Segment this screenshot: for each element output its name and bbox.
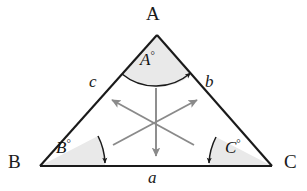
side-label-a: a — [148, 169, 157, 186]
side-label-b: b — [205, 73, 214, 90]
vertex-label-c: C — [284, 152, 297, 171]
vertex-label-a: A — [146, 4, 160, 23]
angle-label-c: C° — [225, 138, 241, 156]
angle-arcs — [98, 73, 216, 163]
triangle-diagram-canvas — [0, 0, 307, 191]
angle-label-b-letter: B — [56, 138, 66, 157]
angle-label-a: A° — [140, 50, 155, 68]
angle-label-b: B° — [56, 138, 71, 156]
degree-symbol-a: ° — [150, 49, 154, 61]
triangle-figure: A B C a b c A° B° C° — [0, 0, 307, 191]
angle-label-c-letter: C — [225, 138, 236, 157]
interior-arrows — [112, 88, 197, 156]
angle-label-a-letter: A — [140, 50, 150, 69]
angle-sector-b — [40, 136, 105, 166]
vertex-label-b: B — [8, 152, 21, 171]
side-label-c: c — [89, 73, 97, 90]
degree-symbol-c: ° — [236, 137, 240, 149]
degree-symbol-b: ° — [66, 137, 70, 149]
